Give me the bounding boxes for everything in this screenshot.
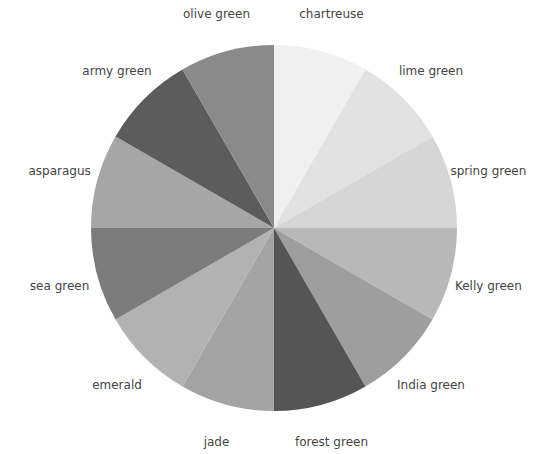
pie-label: chartreuse (299, 7, 364, 21)
pie-label: forest green (295, 435, 368, 449)
pie-label: asparagus (28, 164, 90, 178)
pie-label: lime green (399, 64, 463, 78)
pie-label: sea green (30, 279, 89, 293)
pie-label: Kelly green (455, 279, 522, 293)
pie-label: spring green (450, 164, 526, 178)
pie-label: army green (82, 64, 151, 78)
pie-slices (91, 45, 457, 411)
pie-chart: chartreuselime greenspring greenKelly gr… (0, 0, 560, 454)
pie-label: olive green (183, 7, 250, 21)
pie-chart-canvas: chartreuselime greenspring greenKelly gr… (0, 0, 560, 454)
pie-label: emerald (92, 378, 142, 392)
pie-label: jade (203, 435, 230, 449)
pie-label: India green (397, 378, 465, 392)
